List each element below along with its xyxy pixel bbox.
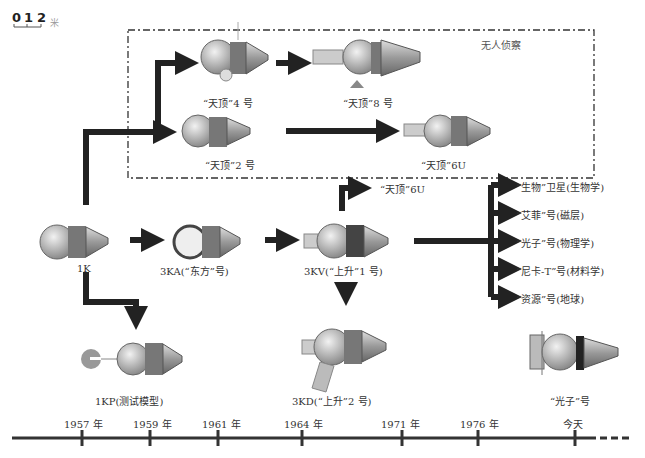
scale-unit: 米	[50, 16, 59, 29]
3kd-craft	[302, 329, 386, 392]
branch-efir: “艾菲”号(磁层)	[516, 207, 584, 222]
timeline-1961: 1961 年	[202, 416, 241, 431]
timeline-today: 今天	[563, 416, 583, 431]
branch-bion: “生物”卫星(生物学)	[516, 179, 604, 194]
scale-tick-2: 2	[37, 10, 46, 25]
1k-craft	[40, 225, 108, 259]
label-zenit8: “天顶”8 号	[343, 95, 393, 110]
label-zenit2: “天顶”2 号	[205, 157, 255, 172]
diagram-graphics	[0, 0, 645, 458]
3ka-craft	[174, 226, 240, 258]
zenit8-craft	[313, 40, 420, 88]
label-3kv: 3KV(“上升”1 号)	[304, 263, 383, 278]
label-foton: “光子”号	[550, 393, 590, 408]
zenit2-craft	[182, 115, 250, 147]
timeline-1957: 1957 年	[64, 416, 103, 431]
scale-tick-1: 1	[24, 10, 33, 25]
timeline-axis	[12, 430, 630, 446]
label-3kd: 3KD(“上升”2 号)	[292, 393, 371, 408]
timeline-1976: 1976 年	[460, 416, 499, 431]
label-1kp: 1KP(测试模型)	[95, 393, 163, 408]
zenit4-craft	[201, 22, 268, 81]
foton-craft	[530, 331, 618, 375]
region-label: 无人侦察	[481, 37, 521, 52]
1kp-craft	[81, 343, 182, 375]
label-zenit6u-box: “天顶”6U	[421, 157, 466, 172]
timeline-1964: 1964 年	[284, 416, 323, 431]
branch-resurs: “资源”号(地球)	[516, 291, 584, 306]
3kv-craft	[304, 224, 388, 258]
label-1k: 1K	[77, 263, 91, 274]
label-zenit6u-branch: “天顶”6U	[380, 181, 425, 196]
branch-foton: “光子”号(物理学)	[516, 235, 594, 250]
zenit6u-craft	[404, 115, 490, 147]
timeline-1959: 1959 年	[133, 416, 172, 431]
branch-nika-t: “尼卡-T”号(材料学)	[516, 263, 604, 278]
label-3ka: 3KA(“东方”号)	[160, 263, 229, 278]
timeline-1971: 1971 年	[381, 416, 420, 431]
scale-tick-0: 0	[12, 10, 21, 25]
label-zenit4: “天顶”4 号	[203, 95, 253, 110]
